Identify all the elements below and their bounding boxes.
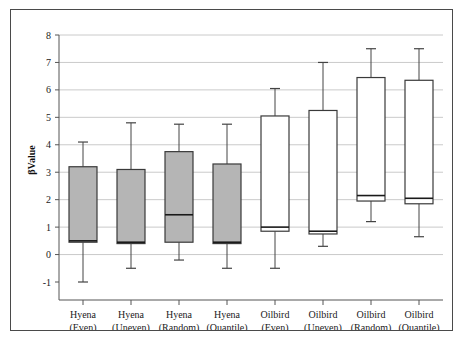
box-rect: [405, 80, 433, 203]
box-plot-item: [69, 142, 97, 282]
figure-frame: 876543210-1 Hyena(Even)Hyena(Uneven)Hyen…: [10, 9, 453, 331]
box-plot-item: [213, 124, 241, 268]
x-axis-category-label: (Uneven): [304, 322, 342, 330]
x-axis-category-label: Oilbird: [405, 309, 434, 320]
box-rect: [117, 169, 145, 243]
box-plot-svg: 876543210-1 Hyena(Even)Hyena(Uneven)Hyen…: [11, 10, 452, 330]
x-axis-category-label: (Quantile): [206, 322, 247, 330]
x-axis-ticks-group: [83, 300, 419, 305]
x-axis-category-label: (Random): [159, 322, 200, 330]
x-axis-category-label: Hyena: [166, 309, 193, 320]
x-axis-category-label: (Random): [351, 322, 392, 330]
box-rect: [213, 164, 241, 244]
y-axis-tick-label: 8: [46, 30, 51, 41]
y-axis-tick-label: 4: [46, 139, 51, 150]
y-axis-tick-label: 0: [46, 249, 51, 260]
box-rect: [69, 167, 97, 242]
x-axis-category-label: Hyena: [70, 309, 97, 320]
box-plot-item: [261, 89, 289, 269]
y-axis-tick-label: 6: [46, 84, 51, 95]
chart-root: 876543210-1 Hyena(Even)Hyena(Uneven)Hyen…: [0, 0, 465, 345]
y-axis-tick-label: 5: [46, 112, 51, 123]
x-axis-category-label: (Quantile): [398, 322, 439, 330]
y-axis-tick-label: 1: [46, 222, 51, 233]
box-plot-item: [405, 49, 433, 237]
box-rect: [357, 78, 385, 201]
y-axis-title: βValue: [26, 145, 37, 175]
box-rect: [165, 152, 193, 243]
box-plot-item: [357, 49, 385, 222]
y-axis-tick-label: 3: [46, 167, 51, 178]
x-axis-category-label: (Uneven): [112, 322, 150, 330]
x-axis-category-label: Oilbird: [309, 309, 338, 320]
y-axis-tick-label: 7: [46, 57, 51, 68]
x-axis-category-label: Oilbird: [357, 309, 386, 320]
x-axis-category-label: Hyena: [214, 309, 241, 320]
x-axis-category-label: (Even): [69, 322, 96, 330]
category-labels-group: Hyena(Even)Hyena(Uneven)Hyena(Random)Hye…: [69, 309, 439, 330]
box-rect: [261, 116, 289, 231]
y-axis-tick-label: 2: [46, 194, 51, 205]
x-axis-category-label: (Even): [261, 322, 288, 330]
x-axis-category-label: Oilbird: [261, 309, 290, 320]
y-axis-ticks-group: 876543210-1: [43, 30, 59, 288]
boxes-group: [69, 49, 433, 282]
y-axis-tick-label: -1: [43, 277, 51, 288]
x-axis-category-label: Hyena: [118, 309, 145, 320]
box-rect: [309, 110, 337, 234]
